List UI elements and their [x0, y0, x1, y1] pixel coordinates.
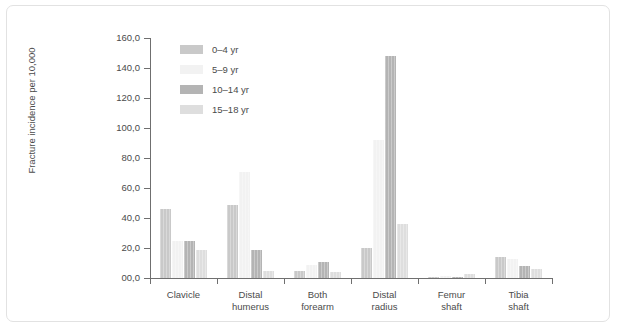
- x-axis-category-label: Clavicle: [150, 289, 217, 301]
- legend-swatch: [180, 85, 203, 94]
- y-axis-tick: [144, 188, 150, 189]
- bar: [428, 277, 440, 279]
- legend-swatch: [180, 45, 203, 54]
- x-axis-category-label: Femurshaft: [418, 289, 485, 312]
- chart-legend: 0–4 yr5–9 yr10–14 yr15–18 yr: [180, 42, 249, 122]
- y-axis-tick-labels: 160,0140,0120,0100,080,060,040,020,000,0: [96, 6, 140, 323]
- bar: [239, 172, 251, 279]
- y-axis-tick: [144, 158, 150, 159]
- legend-item: 5–9 yr: [180, 62, 249, 77]
- x-axis-tick: [418, 278, 419, 284]
- bar: [318, 262, 330, 279]
- bar: [531, 269, 543, 278]
- bar: [330, 272, 342, 278]
- x-axis-tick: [552, 278, 553, 284]
- x-axis-category-label-line: shaft: [418, 301, 485, 313]
- x-axis-category-label-line: shaft: [485, 301, 552, 313]
- legend-label: 15–18 yr: [212, 105, 249, 115]
- bar: [519, 266, 531, 278]
- y-axis-tick-label: 20,0: [100, 243, 140, 253]
- x-axis-tick: [485, 278, 486, 284]
- x-axis-category-label: Distalradius: [351, 289, 418, 312]
- figure-frame: 160,0140,0120,0100,080,060,040,020,000,0…: [6, 5, 610, 322]
- x-axis-category-label-line: humerus: [217, 301, 284, 313]
- bar: [172, 241, 184, 279]
- x-axis-tick: [284, 278, 285, 284]
- y-axis-tick-label: 140,0: [100, 63, 140, 73]
- y-axis-tick: [144, 68, 150, 69]
- bar: [196, 250, 208, 279]
- legend-item: 10–14 yr: [180, 82, 249, 97]
- bar: [361, 248, 373, 278]
- bar: [373, 140, 385, 278]
- bar: [452, 277, 464, 279]
- legend-item: 0–4 yr: [180, 42, 249, 57]
- x-axis-category-label-line: forearm: [284, 301, 351, 313]
- legend-item: 15–18 yr: [180, 102, 249, 117]
- x-axis-category-label-line: Tibia: [485, 289, 552, 301]
- y-axis-tick: [144, 128, 150, 129]
- legend-swatch: [180, 65, 203, 74]
- bar: [184, 241, 196, 279]
- x-axis-category-label: Distalhumerus: [217, 289, 284, 312]
- legend-label: 0–4 yr: [212, 45, 238, 55]
- bar-group: [361, 38, 409, 278]
- y-axis-tick: [144, 38, 150, 39]
- bar: [385, 56, 397, 278]
- y-axis-tick-label: 00,0: [100, 273, 140, 283]
- x-axis-tick: [351, 278, 352, 284]
- y-axis-tick: [144, 98, 150, 99]
- y-axis-tick-label: 100,0: [100, 123, 140, 133]
- bar: [294, 271, 306, 279]
- legend-swatch: [180, 105, 203, 114]
- x-axis-category-label-line: Clavicle: [150, 289, 217, 301]
- y-axis-tick-label: 160,0: [100, 33, 140, 43]
- x-axis-category-label-line: Both: [284, 289, 351, 301]
- legend-label: 10–14 yr: [212, 85, 249, 95]
- y-axis-tick: [144, 248, 150, 249]
- x-axis-category-label-line: Femur: [418, 289, 485, 301]
- y-axis-tick: [144, 218, 150, 219]
- x-axis-category-label-line: Distal: [217, 289, 284, 301]
- x-axis-category-label-line: radius: [351, 301, 418, 313]
- x-axis-tick: [150, 278, 151, 284]
- bar: [495, 257, 507, 278]
- y-axis-title: Fracture incidence per 10,000: [26, 26, 37, 196]
- bar: [306, 265, 318, 279]
- bar: [251, 250, 263, 279]
- x-axis-tick: [217, 278, 218, 284]
- bar: [160, 209, 172, 278]
- bar-group: [495, 38, 543, 278]
- y-axis-tick-label: 60,0: [100, 183, 140, 193]
- y-axis-tick-label: 40,0: [100, 213, 140, 223]
- bar: [397, 224, 409, 278]
- bar: [507, 259, 519, 279]
- x-axis-category-label: Bothforearm: [284, 289, 351, 312]
- x-axis-category-label: Tibiashaft: [485, 289, 552, 312]
- legend-label: 5–9 yr: [212, 65, 238, 75]
- y-axis-tick-label: 80,0: [100, 153, 140, 163]
- bar-group: [294, 38, 342, 278]
- y-axis-tick-label: 120,0: [100, 93, 140, 103]
- bar: [263, 271, 275, 279]
- bar: [464, 274, 476, 279]
- bar: [440, 276, 452, 278]
- bar: [227, 205, 239, 279]
- bar-group: [428, 38, 476, 278]
- x-axis-category-label-line: Distal: [351, 289, 418, 301]
